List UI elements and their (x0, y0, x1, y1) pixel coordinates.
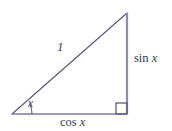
adjacent-side-label: cos x (60, 116, 85, 129)
adjacent-function-text: cos (60, 115, 77, 129)
hypotenuse-label: 1 (57, 40, 64, 53)
right-angle-marker-icon (116, 103, 127, 114)
adjacent-variable-text: x (80, 115, 86, 129)
angle-label: x (28, 98, 33, 110)
triangle-svg (0, 0, 172, 131)
opposite-variable-text: x (152, 51, 158, 65)
trig-triangle-figure: 1 sin x cos x x (0, 0, 172, 131)
opposite-function-text: sin (134, 51, 149, 65)
opposite-side-label: sin x (134, 52, 157, 65)
